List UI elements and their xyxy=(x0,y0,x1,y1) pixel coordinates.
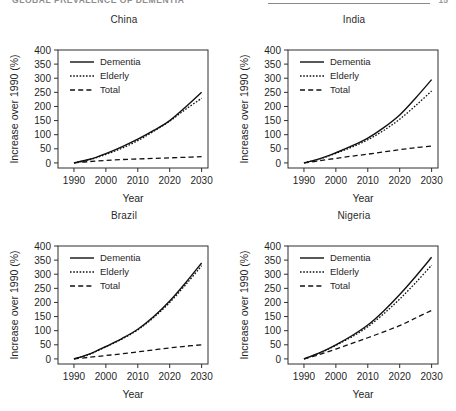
legend-label-dementia: Dementia xyxy=(100,56,141,67)
x-axis-title: Year xyxy=(352,192,374,204)
y-tick-label: 50 xyxy=(40,143,52,154)
series-line-total xyxy=(304,146,432,163)
x-tick-label: 2020 xyxy=(159,371,182,382)
chart-title-china: China xyxy=(2,14,224,25)
y-tick-label: 250 xyxy=(34,87,51,98)
y-axis-title: Increase over 1990 (%) xyxy=(238,54,250,163)
y-tick-label: 0 xyxy=(45,158,51,169)
x-tick-label: 2000 xyxy=(95,175,118,186)
series-line-dementia xyxy=(304,80,432,163)
chart-panel-nigeria: Nigeria 05010015020025030035040019902000… xyxy=(232,210,454,402)
y-tick-label: 200 xyxy=(34,101,51,112)
chart-svg-nigeria: 0501001502002503003504001990200020102020… xyxy=(232,222,454,402)
legend-label-elderly: Elderly xyxy=(100,70,129,81)
y-axis-title: Increase over 1990 (%) xyxy=(238,250,250,359)
y-tick-label: 300 xyxy=(34,269,51,280)
y-tick-label: 150 xyxy=(264,311,281,322)
x-tick-label: 2030 xyxy=(190,371,213,382)
x-tick-label: 2030 xyxy=(190,175,213,186)
x-tick-label: 2010 xyxy=(127,371,150,382)
x-tick-label: 1990 xyxy=(63,371,86,382)
y-tick-label: 400 xyxy=(264,45,281,56)
y-tick-label: 0 xyxy=(275,354,281,365)
y-tick-label: 350 xyxy=(264,59,281,70)
y-tick-label: 150 xyxy=(34,115,51,126)
page-number: 15 xyxy=(439,0,448,5)
chart-title-brazil: Brazil xyxy=(2,210,224,221)
y-tick-label: 150 xyxy=(34,311,51,322)
series-line-dementia xyxy=(74,92,202,163)
y-tick-label: 350 xyxy=(34,59,51,70)
chart-panel-india: India 0501001502002503003504001990200020… xyxy=(232,14,454,206)
series-line-elderly xyxy=(74,266,202,359)
x-tick-label: 2020 xyxy=(159,175,182,186)
legend-label-total: Total xyxy=(100,84,120,95)
legend-label-elderly: Elderly xyxy=(330,70,359,81)
chart-panel-china: China 0501001502002503003504001990200020… xyxy=(2,14,224,206)
chart-svg-brazil: 0501001502002503003504001990200020102020… xyxy=(2,222,224,402)
y-tick-label: 200 xyxy=(264,297,281,308)
y-tick-label: 100 xyxy=(34,129,51,140)
x-tick-label: 2020 xyxy=(389,175,412,186)
x-axis-title: Year xyxy=(122,192,144,204)
x-tick-label: 2030 xyxy=(420,175,443,186)
y-tick-label: 250 xyxy=(264,87,281,98)
legend-label-dementia: Dementia xyxy=(330,252,371,263)
x-axis-title: Year xyxy=(352,388,374,400)
running-head-title: GLOBAL PREVALENCE OF DEMENTIA xyxy=(12,0,184,5)
y-tick-label: 350 xyxy=(264,255,281,266)
y-tick-label: 300 xyxy=(264,73,281,84)
legend-label-total: Total xyxy=(100,280,120,291)
y-tick-label: 400 xyxy=(264,241,281,252)
x-tick-label: 1990 xyxy=(293,175,316,186)
y-tick-label: 400 xyxy=(34,241,51,252)
chart-panel-brazil: Brazil 050100150200250300350400199020002… xyxy=(2,210,224,402)
legend-label-elderly: Elderly xyxy=(330,266,359,277)
x-tick-label: 2000 xyxy=(95,371,118,382)
series-line-dementia xyxy=(74,263,202,359)
x-tick-label: 2020 xyxy=(389,371,412,382)
y-tick-label: 100 xyxy=(34,325,51,336)
y-tick-label: 0 xyxy=(275,158,281,169)
legend-label-total: Total xyxy=(330,84,350,95)
x-tick-label: 1990 xyxy=(293,371,316,382)
series-line-elderly xyxy=(74,98,202,163)
legend-label-dementia: Dementia xyxy=(100,252,141,263)
x-tick-label: 1990 xyxy=(63,175,86,186)
chart-svg-china: 0501001502002503003504001990200020102020… xyxy=(2,26,224,206)
x-tick-label: 2010 xyxy=(357,175,380,186)
x-tick-label: 2030 xyxy=(420,371,443,382)
x-tick-label: 2000 xyxy=(325,371,348,382)
y-tick-label: 50 xyxy=(270,143,282,154)
y-tick-label: 250 xyxy=(264,283,281,294)
y-tick-label: 0 xyxy=(45,354,51,365)
y-tick-label: 50 xyxy=(270,339,282,350)
x-tick-label: 2010 xyxy=(127,175,150,186)
legend-label-total: Total xyxy=(330,280,350,291)
x-axis-title: Year xyxy=(122,388,144,400)
y-tick-label: 200 xyxy=(34,297,51,308)
y-tick-label: 400 xyxy=(34,45,51,56)
x-tick-label: 2000 xyxy=(325,175,348,186)
legend-label-elderly: Elderly xyxy=(100,266,129,277)
y-tick-label: 350 xyxy=(34,255,51,266)
y-axis-title: Increase over 1990 (%) xyxy=(8,250,20,359)
running-head-rule xyxy=(268,3,430,4)
chart-title-nigeria: Nigeria xyxy=(232,210,454,221)
x-tick-label: 2010 xyxy=(357,371,380,382)
y-tick-label: 100 xyxy=(264,325,281,336)
y-tick-label: 50 xyxy=(40,339,52,350)
chart-title-india: India xyxy=(232,14,454,25)
y-axis-title: Increase over 1990 (%) xyxy=(8,54,20,163)
y-tick-label: 300 xyxy=(34,73,51,84)
y-tick-label: 100 xyxy=(264,129,281,140)
running-head: GLOBAL PREVALENCE OF DEMENTIA 15 xyxy=(0,0,456,9)
y-tick-label: 200 xyxy=(264,101,281,112)
y-tick-label: 250 xyxy=(34,283,51,294)
y-tick-label: 150 xyxy=(264,115,281,126)
chart-svg-india: 0501001502002503003504001990200020102020… xyxy=(232,26,454,206)
legend-label-dementia: Dementia xyxy=(330,56,371,67)
y-tick-label: 300 xyxy=(264,269,281,280)
